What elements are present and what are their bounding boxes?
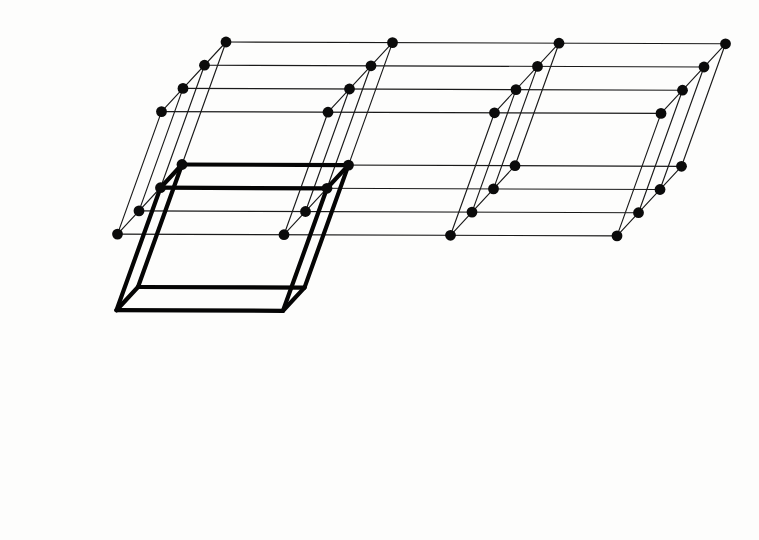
lattice-node xyxy=(134,206,145,217)
lattice-node xyxy=(656,108,667,119)
lattice-edge-a xyxy=(205,65,705,67)
lattice-edge-group xyxy=(118,42,726,236)
lattice-node xyxy=(279,229,290,240)
lattice-node xyxy=(366,60,377,71)
lattice-node xyxy=(488,184,499,195)
lattice-node xyxy=(156,106,167,117)
lattice-node xyxy=(720,38,731,49)
lattice-node xyxy=(554,38,565,49)
lattice-node xyxy=(511,84,522,95)
unit-cell-edge xyxy=(182,165,349,166)
lattice-edge-b xyxy=(162,42,227,112)
lattice-node xyxy=(300,206,311,217)
lattice-node xyxy=(677,85,688,96)
lattice-node xyxy=(445,230,456,241)
lattice-edge-a xyxy=(162,112,662,114)
lattice-edge-a xyxy=(139,211,639,213)
lattice-node xyxy=(633,207,644,218)
lattice-node xyxy=(387,37,398,48)
unit-cell-edge xyxy=(138,287,305,288)
lattice-node xyxy=(510,160,521,171)
lattice-node xyxy=(532,61,543,72)
lattice-diagram xyxy=(0,0,759,540)
unit-cell-edge xyxy=(117,310,284,311)
lattice-figure xyxy=(0,0,759,540)
lattice-edge-a xyxy=(118,234,618,236)
lattice-node xyxy=(323,107,334,118)
lattice-node xyxy=(112,229,123,240)
lattice-node xyxy=(322,183,333,194)
unit-cell-edge-group xyxy=(117,165,349,311)
lattice-node xyxy=(467,207,478,218)
lattice-edge-b xyxy=(495,43,560,113)
lattice-node xyxy=(676,161,687,172)
lattice-node xyxy=(178,83,189,94)
lattice-node xyxy=(489,107,500,118)
lattice-node xyxy=(344,84,355,95)
lattice-node xyxy=(221,37,232,48)
lattice-node xyxy=(699,62,710,73)
unit-cell-edge xyxy=(161,188,328,189)
lattice-node xyxy=(343,160,354,171)
lattice-edge-a xyxy=(183,88,683,90)
lattice-node xyxy=(155,182,166,193)
lattice-edge-a xyxy=(226,42,726,44)
lattice-edge-b xyxy=(328,43,393,113)
lattice-node xyxy=(199,60,210,71)
lattice-node xyxy=(177,159,188,170)
lattice-node xyxy=(655,184,666,195)
lattice-node xyxy=(612,231,623,242)
lattice-edge-b xyxy=(661,44,726,114)
lattice-edge-b xyxy=(451,166,516,236)
lattice-edge-b xyxy=(617,166,682,236)
